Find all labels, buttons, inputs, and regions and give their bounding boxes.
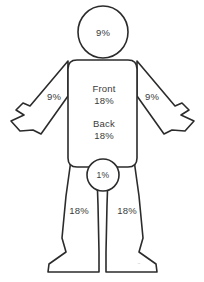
rule-of-nines-diagram: 9% 9% 9% Front 18% Back 18% 1% 18% 18% ~ — [0, 0, 204, 282]
watermark-mark: ~ — [138, 260, 141, 266]
left-arm-percent-label: 9% — [47, 91, 61, 102]
head-percent-label: 9% — [96, 27, 110, 38]
torso-shape[interactable] — [68, 60, 137, 167]
torso-front-percent-label: 18% — [94, 95, 114, 106]
torso-front-title: Front — [92, 83, 115, 94]
groin-percent-label: 1% — [97, 170, 110, 180]
right-leg-percent-label: 18% — [117, 205, 137, 216]
right-arm-percent-label: 9% — [145, 91, 159, 102]
left-leg-percent-label: 18% — [69, 205, 89, 216]
body-figure-svg: 9% 9% 9% Front 18% Back 18% 1% 18% 18% ~ — [0, 0, 204, 282]
torso-back-percent-label: 18% — [94, 130, 114, 141]
torso-back-title: Back — [93, 118, 115, 129]
